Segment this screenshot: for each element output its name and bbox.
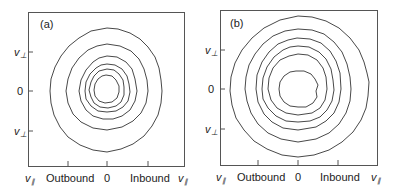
panel-a-contours [50,28,162,152]
x-label-vpar-left: v∥ [216,171,226,185]
x-tick-inbound: Inbound [320,171,360,183]
x-tick-outbound: Outbound [237,171,285,183]
x-label-vpar-left: v∥ [25,172,35,186]
x-tick-outbound: Outbound [46,172,94,184]
panel-a-label: (a) [40,18,53,30]
x-tick-zero: 0 [295,171,301,183]
figure: (a) v⊥ 0 v⊥ v∥ Outbound 0 Inbound v∥ (b) [0,0,393,192]
panel-b: (b) v⊥ 0 v⊥ v∥ Outbound 0 Inbound v∥ [205,11,381,186]
panel-a-frame [29,13,185,167]
y-label-zero: 0 [17,85,23,97]
y-label-vperp-top: v⊥ [205,44,218,58]
y-label-vperp-top: v⊥ [14,46,27,60]
y-label-vperp-bottom: v⊥ [14,125,27,139]
x-tick-inbound: Inbound [130,172,170,184]
y-label-vperp-bottom: v⊥ [205,123,218,137]
x-label-vpar-right: v∥ [178,172,188,186]
x-label-vpar-right: v∥ [371,171,381,185]
panel-a: (a) v⊥ 0 v⊥ v∥ Outbound 0 Inbound v∥ [14,13,188,187]
y-label-zero: 0 [208,83,214,95]
panel-b-label: (b) [230,17,243,29]
x-tick-zero: 0 [104,172,110,184]
panel-b-contours [230,16,369,157]
